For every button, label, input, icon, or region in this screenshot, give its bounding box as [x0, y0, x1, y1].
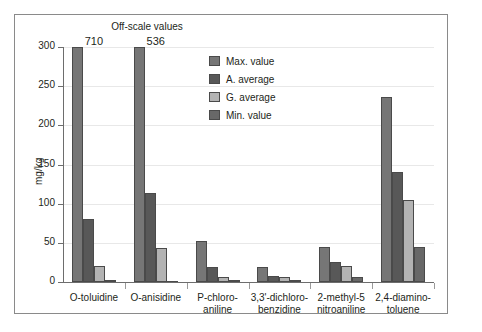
- bar: [414, 247, 425, 282]
- legend-swatch-icon: [209, 92, 220, 102]
- x-tick-label: 3,3'-dichloro-benzidine: [245, 292, 315, 316]
- x-tick-label-line: 3,3'-dichloro-: [245, 292, 315, 304]
- y-tick-label: 300: [19, 40, 55, 51]
- bar: [341, 266, 352, 282]
- x-tick-label-line: benzidine: [245, 304, 315, 316]
- bar: [403, 200, 414, 282]
- legend-item[interactable]: Min. value: [209, 107, 275, 123]
- legend-label: G. average: [226, 92, 275, 103]
- legend-item[interactable]: A. average: [209, 71, 275, 87]
- x-tick-mark: [434, 283, 435, 289]
- bar: [134, 47, 145, 282]
- x-tick-label: 2-methyl-5nitroaniline: [306, 292, 376, 316]
- bar: [381, 97, 392, 282]
- y-tick-label: 50: [19, 236, 55, 247]
- offscale-value: 710: [64, 35, 124, 47]
- legend-item[interactable]: G. average: [209, 89, 275, 105]
- gridline: [63, 165, 434, 166]
- bar: [83, 219, 94, 282]
- x-tick-label: P-chloro-aniline: [183, 292, 253, 316]
- x-tick-label-line: nitroaniline: [306, 304, 376, 316]
- gridline: [63, 47, 434, 48]
- y-axis-line: [63, 47, 64, 283]
- y-axis-label: mg/kg: [33, 157, 44, 184]
- bar: [330, 262, 341, 282]
- chart-figure: Off-scale values 710536 0501001502002503…: [14, 14, 448, 314]
- bar: [319, 247, 330, 282]
- offscale-title: Off-scale values: [77, 21, 217, 32]
- legend-swatch-icon: [209, 74, 220, 84]
- x-tick-label-line: 2,4-diamino-: [368, 292, 438, 304]
- chart-legend: Max. valueA. averageG. averageMin. value: [209, 53, 275, 125]
- x-tick-mark: [372, 283, 373, 289]
- legend-label: A. average: [226, 74, 274, 85]
- bar: [72, 47, 83, 282]
- x-tick-label-line: aniline: [183, 304, 253, 316]
- x-tick-label-line: toluene: [368, 304, 438, 316]
- y-tick-label: 100: [19, 197, 55, 208]
- x-tick-mark: [249, 283, 250, 289]
- gridline: [63, 204, 434, 205]
- bar: [392, 172, 403, 282]
- legend-swatch-icon: [209, 56, 220, 66]
- x-tick-label-line: O-toluidine: [59, 292, 129, 304]
- x-tick-label: O-toluidine: [59, 292, 129, 304]
- y-tick-label: 250: [19, 79, 55, 90]
- bar: [196, 241, 207, 282]
- x-tick-mark: [187, 283, 188, 289]
- bar: [257, 267, 268, 282]
- y-tick-label: 0: [19, 275, 55, 286]
- gridline: [63, 243, 434, 244]
- x-tick-label: O-anisidine: [121, 292, 191, 304]
- x-tick-label-line: 2-methyl-5: [306, 292, 376, 304]
- legend-label: Max. value: [226, 56, 274, 67]
- x-tick-mark: [125, 283, 126, 289]
- x-tick-label: 2,4-diamino-toluene: [368, 292, 438, 316]
- y-tick-label: 200: [19, 118, 55, 129]
- bar: [145, 193, 156, 282]
- offscale-value: 536: [126, 35, 186, 47]
- x-tick-label-line: O-anisidine: [121, 292, 191, 304]
- x-axis-line: [63, 282, 434, 283]
- legend-item[interactable]: Max. value: [209, 53, 275, 69]
- gridline: [63, 125, 434, 126]
- bar: [156, 248, 167, 282]
- bar: [207, 267, 218, 282]
- x-tick-mark: [310, 283, 311, 289]
- x-tick-label-line: P-chloro-: [183, 292, 253, 304]
- legend-swatch-icon: [209, 110, 220, 120]
- legend-label: Min. value: [226, 110, 272, 121]
- bar: [94, 266, 105, 282]
